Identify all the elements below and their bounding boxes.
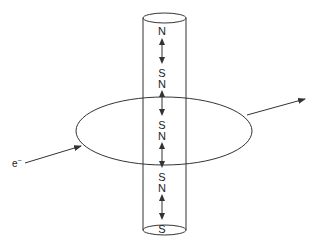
cylinder-top-cap — [143, 13, 186, 23]
electron-charge: − — [18, 157, 22, 164]
pole-label: N — [158, 130, 166, 142]
diagram-canvas: N S N S N S N S — [0, 0, 319, 251]
double-arrow-icon — [159, 90, 165, 116]
double-arrow-icon — [159, 38, 165, 64]
double-arrow-icon — [159, 142, 165, 168]
pole-label: S — [158, 223, 165, 235]
electron-label: e− — [12, 157, 22, 169]
pole-label: N — [158, 25, 166, 37]
double-arrow-icon — [159, 194, 165, 220]
incoming-electron-arrow — [25, 146, 81, 163]
pole-label: N — [158, 182, 166, 194]
pole-label: N — [158, 78, 166, 90]
outgoing-electron-arrow — [247, 99, 305, 115]
